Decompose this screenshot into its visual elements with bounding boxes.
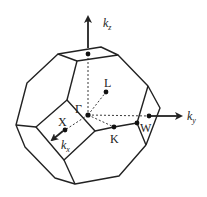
point-ky-face bbox=[147, 114, 152, 119]
gamma-label: Γ bbox=[75, 102, 82, 116]
kz-label: kz bbox=[103, 16, 112, 32]
X-label: X bbox=[58, 115, 67, 129]
point-gamma bbox=[85, 112, 90, 117]
point-K bbox=[112, 125, 117, 130]
labels: kz ky kx Γ L X K W bbox=[58, 16, 196, 154]
brillouin-zone-diagram: kz ky kx Γ L X K W bbox=[0, 0, 207, 197]
axis-arrows bbox=[52, 17, 181, 140]
point-L bbox=[104, 90, 109, 95]
point-W bbox=[135, 121, 140, 126]
ky-label: ky bbox=[187, 109, 196, 125]
L-label: L bbox=[104, 76, 111, 90]
K-label: K bbox=[110, 132, 119, 146]
kx-label: kx bbox=[61, 138, 70, 154]
point-top bbox=[86, 52, 91, 57]
W-label: W bbox=[140, 121, 152, 135]
